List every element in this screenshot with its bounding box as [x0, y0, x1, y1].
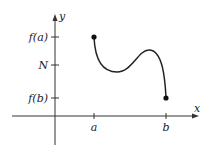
label-n: N — [37, 59, 48, 72]
function-curve — [94, 37, 166, 97]
label-fa: f(a) — [28, 31, 48, 44]
intermediate-value-diagram: y x f(a) N f(b) a b — [0, 0, 210, 155]
label-fb: f(b) — [27, 92, 48, 105]
label-a: a — [91, 121, 98, 134]
x-axis-label: x — [194, 102, 201, 115]
endpoint-a — [91, 34, 96, 39]
label-b: b — [162, 121, 169, 134]
y-axis-label: y — [58, 10, 66, 23]
y-axis-arrow-icon — [53, 14, 58, 21]
endpoint-b — [163, 95, 168, 100]
